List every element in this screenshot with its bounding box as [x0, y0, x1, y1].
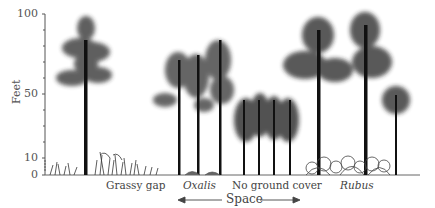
y-axis-label: Feet: [10, 80, 23, 104]
tree-large-left: [56, 16, 112, 175]
zone-label-no-ground-cover: No ground cover: [232, 179, 322, 191]
zone-label-grassy-gap: Grassy gap: [106, 179, 165, 191]
tree-group-no-ground-cover: [234, 93, 299, 175]
y-tick-10: 10: [14, 151, 38, 164]
forest-profile-illustration: [0, 0, 435, 208]
y-tick-100: 100: [14, 7, 38, 20]
tree-group-rubus: [283, 12, 410, 175]
y-tick-0: 0: [14, 168, 38, 181]
tree-group-oxalis: [153, 40, 234, 175]
y-axis: [42, 14, 46, 175]
zone-label-rubus: Rubus: [340, 179, 374, 191]
zone-label-oxalis: Oxalis: [183, 179, 216, 191]
x-axis-label: Space: [226, 192, 263, 206]
grass-clumps: [50, 152, 158, 175]
